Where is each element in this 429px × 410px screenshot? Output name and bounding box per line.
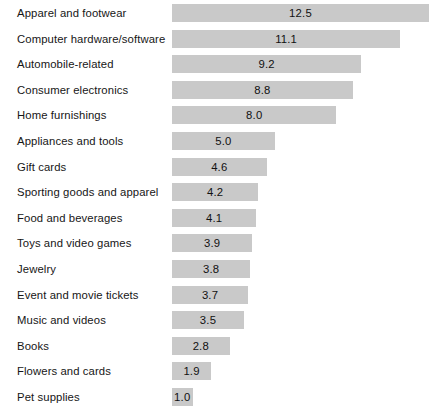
bar-value-label: 1.0 xyxy=(174,388,190,406)
bar-value-label: 8.8 xyxy=(254,81,270,99)
bar-value-label: 4.2 xyxy=(207,183,223,201)
bar-value-label: 11.1 xyxy=(275,30,297,48)
bar-row: Computer hardware/software11.1 xyxy=(0,30,429,56)
category-label: Food and beverages xyxy=(0,209,172,227)
bar-row: Pet supplies1.0 xyxy=(0,388,429,410)
bar-row: Toys and video games3.9 xyxy=(0,234,429,260)
bar-track: 9.2 xyxy=(172,55,429,73)
category-label: Appliances and tools xyxy=(0,132,172,150)
category-label: Pet supplies xyxy=(0,388,172,406)
bar: 8.8 xyxy=(172,81,353,99)
bar-row: Apparel and footwear12.5 xyxy=(0,4,429,30)
bar-row: Books2.8 xyxy=(0,337,429,363)
bar-value-label: 5.0 xyxy=(215,132,231,150)
category-label: Event and movie tickets xyxy=(0,286,172,304)
bar-track: 4.1 xyxy=(172,209,429,227)
bar: 5.0 xyxy=(172,132,275,150)
bar-row: Automobile-related9.2 xyxy=(0,55,429,81)
bar-track: 1.9 xyxy=(172,362,429,380)
bar-track: 8.8 xyxy=(172,81,429,99)
bar: 11.1 xyxy=(172,30,400,48)
bar: 4.2 xyxy=(172,183,258,201)
bar-track: 5.0 xyxy=(172,132,429,150)
bar-track: 3.8 xyxy=(172,260,429,278)
bar-track: 1.0 xyxy=(172,388,429,406)
bar-value-label: 3.7 xyxy=(202,286,218,304)
category-label: Gift cards xyxy=(0,158,172,176)
category-label: Sporting goods and apparel xyxy=(0,183,172,201)
bar: 12.5 xyxy=(172,4,429,22)
bar-track: 8.0 xyxy=(172,106,429,124)
bar-track: 3.5 xyxy=(172,311,429,329)
category-label: Jewelry xyxy=(0,260,172,278)
category-label: Consumer electronics xyxy=(0,81,172,99)
bar-track: 2.8 xyxy=(172,337,429,355)
bar-value-label: 4.6 xyxy=(211,158,227,176)
bar-row: Gift cards4.6 xyxy=(0,158,429,184)
bar-value-label: 9.2 xyxy=(258,55,274,73)
bar-track: 12.5 xyxy=(172,4,429,22)
bar: 3.7 xyxy=(172,286,248,304)
bar: 3.8 xyxy=(172,260,250,278)
bar: 1.0 xyxy=(172,388,193,406)
category-label: Flowers and cards xyxy=(0,362,172,380)
bar-value-label: 3.5 xyxy=(200,311,216,329)
bar-row: Home furnishings8.0 xyxy=(0,106,429,132)
bar: 4.1 xyxy=(172,209,256,227)
category-label: Home furnishings xyxy=(0,106,172,124)
category-label: Computer hardware/software xyxy=(0,30,172,48)
bar-value-label: 1.9 xyxy=(183,362,199,380)
bar-row: Consumer electronics8.8 xyxy=(0,81,429,107)
bar: 3.9 xyxy=(172,234,252,252)
bar-value-label: 2.8 xyxy=(193,337,209,355)
bar: 4.6 xyxy=(172,158,267,176)
bar-value-label: 3.8 xyxy=(203,260,219,278)
bar-row: Event and movie tickets3.7 xyxy=(0,286,429,312)
bar-value-label: 4.1 xyxy=(206,209,222,227)
bar-track: 3.7 xyxy=(172,286,429,304)
bar: 2.8 xyxy=(172,337,230,355)
bar-value-label: 12.5 xyxy=(289,4,312,22)
bar-track: 4.2 xyxy=(172,183,429,201)
bar-row: Music and videos3.5 xyxy=(0,311,429,337)
bar-value-label: 3.9 xyxy=(204,234,220,252)
category-label: Automobile-related xyxy=(0,55,172,73)
bar-row: Sporting goods and apparel4.2 xyxy=(0,183,429,209)
bar-row: Flowers and cards1.9 xyxy=(0,362,429,388)
bar-row: Food and beverages4.1 xyxy=(0,209,429,235)
bar: 8.0 xyxy=(172,106,336,124)
category-label: Books xyxy=(0,337,172,355)
category-label: Music and videos xyxy=(0,311,172,329)
bar: 3.5 xyxy=(172,311,244,329)
bar-row: Appliances and tools5.0 xyxy=(0,132,429,158)
bar: 9.2 xyxy=(172,55,361,73)
category-label: Apparel and footwear xyxy=(0,4,172,22)
bar: 1.9 xyxy=(172,362,211,380)
bar-track: 11.1 xyxy=(172,30,429,48)
bar-row: Jewelry3.8 xyxy=(0,260,429,286)
category-label: Toys and video games xyxy=(0,234,172,252)
bar-track: 3.9 xyxy=(172,234,429,252)
bar-track: 4.6 xyxy=(172,158,429,176)
bar-value-label: 8.0 xyxy=(246,106,262,124)
